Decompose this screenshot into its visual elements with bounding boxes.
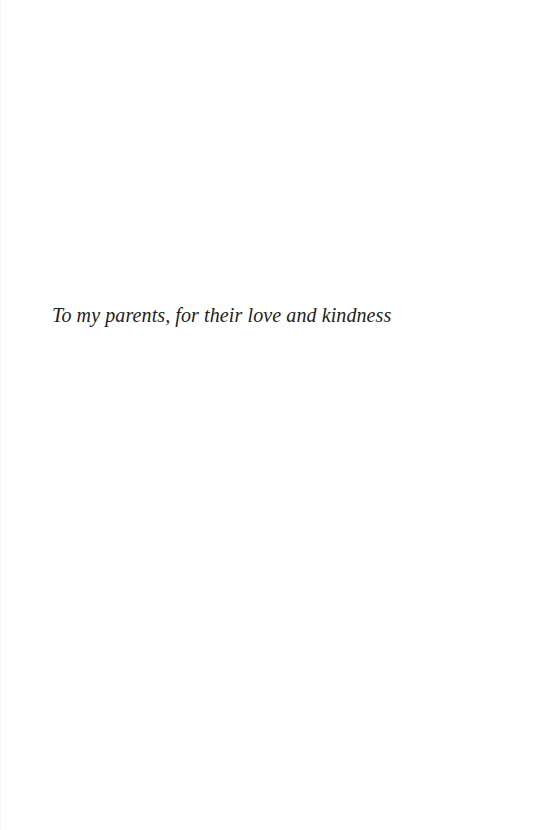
dedication-text: To my parents, for their love and kindne… <box>52 303 391 327</box>
book-page: To my parents, for their love and kindne… <box>0 0 544 830</box>
